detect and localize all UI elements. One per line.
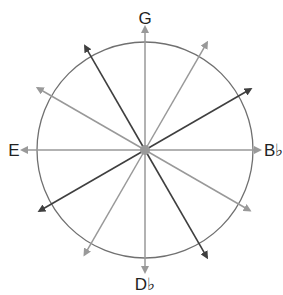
center-dot xyxy=(140,145,150,155)
arrow-60deg xyxy=(145,43,207,150)
arrow-240deg xyxy=(85,150,146,255)
arrow-300deg xyxy=(145,150,207,257)
arrow-330deg xyxy=(145,150,250,211)
arrow-210deg xyxy=(39,150,145,211)
label-top: G xyxy=(138,9,151,28)
label-left: E xyxy=(8,141,19,160)
radial-diagram: G E B♭ D♭ xyxy=(0,0,283,295)
label-right: B♭ xyxy=(264,141,283,160)
arrow-120deg xyxy=(85,46,145,150)
label-bottom: D♭ xyxy=(135,275,155,294)
arrow-30deg xyxy=(145,89,251,150)
arrow-150deg xyxy=(38,88,145,150)
